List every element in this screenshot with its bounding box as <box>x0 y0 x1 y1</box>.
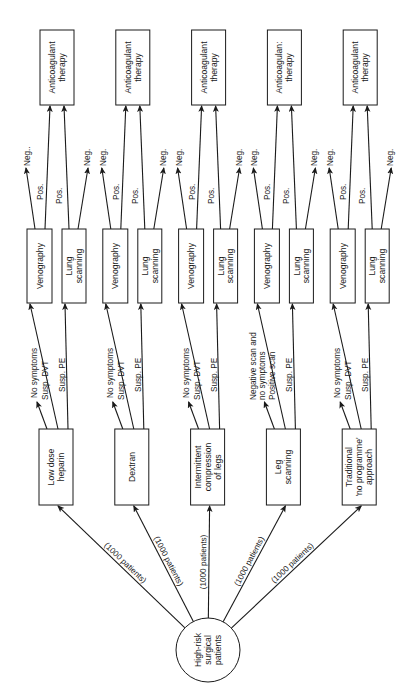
group-5-venography-pos-arrow <box>348 106 353 229</box>
group-4-lung-pos-arrow <box>291 106 296 229</box>
svg-text:Neg.: Neg. <box>83 149 92 166</box>
group-2-lung-pos-arrow <box>140 106 145 229</box>
group-3-venography-neg-label: Neg. <box>175 149 184 166</box>
group-4-screen-label-no-symptoms: Negative scan and <box>249 332 258 400</box>
group-4-anticoagulant-label-line: therapy <box>284 52 294 81</box>
svg-text:No symptoms: No symptoms <box>30 348 39 398</box>
svg-text:Pos.: Pos. <box>36 184 45 200</box>
group-2-anticoagulant-label-line: therapy <box>133 52 143 81</box>
group-1-screen-label-susp-pe: Susp. PE <box>58 357 67 392</box>
group-4-screen-label-susp-pe: Susp. PE <box>285 357 294 392</box>
group-4-intervention-label-line: scanning <box>283 450 293 485</box>
svg-text:Pos.: Pos. <box>207 188 216 204</box>
group-3-screen-label-susp-pe: Susp. PE <box>210 357 219 392</box>
svg-text:Negative scan and: Negative scan and <box>249 332 258 400</box>
svg-text:Susp. DVT: Susp. DVT <box>344 360 353 400</box>
group-3-venography-neg-arrow <box>178 168 187 229</box>
group-1-lung-neg-arrow <box>78 168 88 229</box>
svg-text:Pos.: Pos. <box>339 184 348 200</box>
group-4-venography-neg-arrow <box>253 168 262 229</box>
group-4-lung-scanning-label-line: Lung <box>292 256 302 275</box>
group-3-anticoagulant-label-line: therapy <box>209 52 219 81</box>
group-1-intervention-label: Low doseheparin <box>46 448 66 485</box>
svg-text:Neg..: Neg.. <box>23 146 32 166</box>
group-3-no-symptoms-arrow <box>189 402 199 429</box>
group-1-venography-pos-arrow <box>45 106 50 229</box>
svg-text:Positive scan: Positive scan <box>268 351 277 400</box>
group-1-anticoagulant-label-line: therapy <box>57 52 67 81</box>
svg-text:Neg.: Neg. <box>326 149 335 166</box>
group-3-branch-label: (1000 patients) <box>199 534 209 589</box>
root-node-label-line: surgical <box>203 635 213 665</box>
group-2-screen-label-no-symptoms: No symptoms <box>106 348 115 398</box>
svg-text:Pos.: Pos. <box>188 184 197 200</box>
group-5-lung-pos-label: Pos. <box>358 188 367 204</box>
root-node-label-line: High-risk <box>193 632 203 667</box>
svg-text:Pos.: Pos. <box>263 184 272 200</box>
svg-text:(1000 patients): (1000 patients) <box>199 534 209 589</box>
svg-text:Neg.: Neg. <box>386 149 395 166</box>
group-2-branch-arrow <box>134 506 194 622</box>
group-2-lung-neg-label: Neg. <box>159 149 168 166</box>
svg-text:Susp. PE: Susp. PE <box>134 357 143 392</box>
group-2-lung-scanning-label-line: Lung <box>140 256 150 275</box>
group-5-screen-label-susp-pe: Susp. PE <box>361 357 370 392</box>
svg-text:Pos.: Pos. <box>112 184 121 200</box>
group-4-venography-neg-label: Neg. <box>250 149 259 166</box>
group-1-intervention-label-line: Low dose <box>46 448 56 485</box>
svg-text:(1000 patients): (1000 patients) <box>152 535 185 588</box>
svg-text:Pos.: Pos. <box>55 188 64 204</box>
group-1-venography-label-line: Venography <box>35 242 45 289</box>
flow-diagram: High-risksurgicalpatientsLow doseheparin… <box>0 0 409 687</box>
group-3-screen-label-second: Susp. DVT <box>193 360 202 400</box>
group-4-lung-neg-label: Neg. <box>310 149 319 166</box>
group-5-lung-scanning-label-line: Lung <box>367 256 377 275</box>
group-4-venography-pos-arrow <box>272 106 277 229</box>
svg-text:Neg.: Neg. <box>250 149 259 166</box>
group-2-venography-label: Venography <box>110 242 120 289</box>
group-3-intervention-label-line: Intermittent <box>193 445 203 489</box>
svg-text:Pos.: Pos. <box>282 188 291 204</box>
svg-text:Pos.: Pos. <box>358 188 367 204</box>
group-3-venography-pos-label: Pos. <box>188 184 197 200</box>
group-5-lung-neg-label: Neg. <box>386 149 395 166</box>
group-4-lung-scanning-label-line: scanning <box>301 249 311 284</box>
group-1-screen-label-no-symptoms: No symptoms <box>30 348 39 398</box>
group-3-lung-scanning-label-line: Lung <box>216 256 226 275</box>
group-1-lung-scanning-label-line: scanning <box>74 249 84 284</box>
svg-text:Neg.: Neg. <box>235 149 244 166</box>
group-1-branch-label: (1000 patients) <box>102 541 148 586</box>
svg-text:Neg.: Neg. <box>310 149 319 166</box>
svg-text:Susp. PE: Susp. PE <box>285 357 294 392</box>
svg-text:Susp. DVT: Susp. DVT <box>117 360 126 400</box>
group-4-lung-pos-label: Pos. <box>282 188 291 204</box>
group-4-screen-label-second: Positive scan <box>268 351 277 400</box>
group-4-venography-label: Venography <box>262 242 272 289</box>
group-1-lung-scanning-label-line: Lung <box>64 256 74 275</box>
group-2-venography-neg-label: Neg. <box>99 149 108 166</box>
group-4-no-symptoms-arrow <box>264 402 274 429</box>
group-3-lung-neg-arrow <box>230 168 240 229</box>
svg-text:No symptoms: No symptoms <box>106 348 115 398</box>
svg-text:No symptoms: No symptoms <box>333 348 342 398</box>
group-4-lung-neg-arrow <box>305 168 315 229</box>
group-3-anticoagulant-label-line: Anticoagulant <box>199 41 209 94</box>
group-3-branch-arrow <box>208 506 209 618</box>
group-5-lung-pos-arrow <box>367 106 372 229</box>
group-2-venography-label-line: Venography <box>110 242 120 289</box>
svg-text:(1000 patients): (1000 patients) <box>270 541 316 585</box>
group-5-anticoagulant-label-line: Anticoagulant <box>350 41 360 94</box>
group-3-intervention-label-line: of legs <box>213 454 223 479</box>
svg-text:Susp. DVT: Susp. DVT <box>41 360 50 400</box>
group-5-venography-neg-arrow <box>329 168 338 229</box>
group-2-screen-label-second: Susp. DVT <box>117 360 126 400</box>
group-4-branch-arrow <box>223 506 285 622</box>
svg-text:(1000 patients): (1000 patients) <box>102 541 148 586</box>
group-1-branch-arrow <box>58 506 185 628</box>
group-4-intervention-label-line: Leg <box>273 460 283 475</box>
svg-text:(1000 patients): (1000 patients) <box>233 535 267 588</box>
group-1-lung-pos-arrow <box>64 106 69 229</box>
group-3-lung-scanning-label-line: scanning <box>225 249 235 284</box>
svg-text:Neg.: Neg. <box>159 149 168 166</box>
svg-text:Susp. PE: Susp. PE <box>361 357 370 392</box>
